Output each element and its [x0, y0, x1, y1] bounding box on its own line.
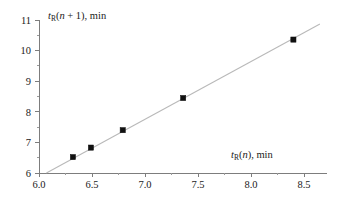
x-axis-title-rest: (n), min — [239, 149, 273, 160]
data-point — [70, 154, 75, 159]
y-axis-title-rest: (n + 1), min — [56, 10, 106, 21]
y-tick-label: 10 — [21, 45, 32, 56]
x-tick-label: 8.0 — [244, 179, 257, 190]
x-tick-labels: 6.06.57.07.58.08.5 — [32, 179, 310, 190]
data-point — [88, 145, 93, 150]
x-axis-title-subscript: R — [234, 153, 239, 162]
y-tick-label: 9 — [26, 76, 31, 87]
x-tick-label: 7.0 — [138, 179, 151, 190]
x-tick-label: 6.0 — [32, 179, 45, 190]
data-point — [181, 95, 186, 100]
data-point — [120, 128, 125, 133]
y-tick-label: 6 — [26, 168, 31, 179]
chart-container: 6.06.57.07.58.08.5 67891011 tR(n + 1), m… — [0, 0, 343, 204]
data-point — [291, 37, 296, 42]
x-tick-label: 8.5 — [297, 179, 310, 190]
y-tick-label: 11 — [21, 15, 31, 26]
y-tick-label: 8 — [26, 107, 31, 118]
y-tick-labels: 67891011 — [21, 15, 32, 179]
chart-plot-area: 6.06.57.07.58.08.5 67891011 — [0, 0, 343, 204]
x-tick-label: 7.5 — [191, 179, 204, 190]
y-axis-title-subscript: R — [51, 14, 56, 23]
x-axis-title: tR(n), min — [231, 150, 273, 161]
x-tick-label: 6.5 — [85, 179, 98, 190]
y-tick-label: 7 — [26, 137, 31, 148]
y-axis-title: tR(n + 1), min — [48, 11, 106, 22]
